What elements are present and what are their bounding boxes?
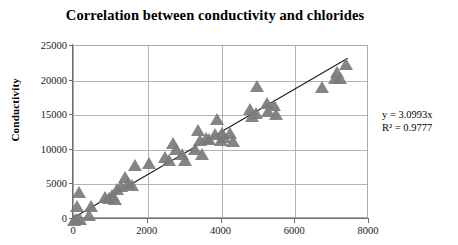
x-gridline: [295, 46, 296, 217]
y-gridline: [74, 150, 367, 151]
y-axis-tick-label: 10000: [7, 143, 67, 154]
plot-area: [73, 45, 368, 218]
regression-equation: y = 3.0993x: [382, 108, 433, 121]
regression-r2: R² = 0.9777: [382, 121, 433, 134]
x-axis-tick-label: 0: [43, 225, 103, 236]
x-gridline: [148, 46, 149, 217]
x-axis-tick-mark: [147, 218, 148, 223]
x-gridline: [222, 46, 223, 217]
chart-title: Correlation between conductivity and chl…: [60, 6, 370, 25]
y-axis-tick-mark: [69, 80, 73, 81]
chart-figure: Correlation between conductivity and chl…: [0, 0, 458, 245]
y-axis-tick-label: 5000: [7, 178, 67, 189]
x-axis-tick-mark: [73, 218, 74, 223]
y-axis-tick-label: 20000: [7, 74, 67, 85]
x-axis-tick-label: 4000: [191, 225, 251, 236]
y-gridline: [74, 115, 367, 116]
regression-annotation: y = 3.0993x R² = 0.9777: [382, 108, 433, 134]
y-axis-tick-mark: [69, 114, 73, 115]
x-axis-tick-mark: [368, 218, 369, 223]
y-gridline: [74, 184, 367, 185]
x-axis-tick-label: 8000: [338, 225, 398, 236]
y-axis-tick-mark: [69, 45, 73, 46]
y-axis-line: [72, 44, 73, 220]
x-axis-tick-label: 6000: [264, 225, 324, 236]
x-axis-tick-label: 2000: [117, 225, 177, 236]
y-axis-tick-mark: [69, 183, 73, 184]
y-axis-tick-mark: [69, 149, 73, 150]
x-axis-tick-mark: [294, 218, 295, 223]
y-gridline: [74, 81, 367, 82]
x-axis-tick-mark: [221, 218, 222, 223]
y-axis-tick-label: 0: [7, 213, 67, 224]
y-axis-tick-label: 25000: [7, 40, 67, 51]
y-axis-tick-label: 15000: [7, 109, 67, 120]
